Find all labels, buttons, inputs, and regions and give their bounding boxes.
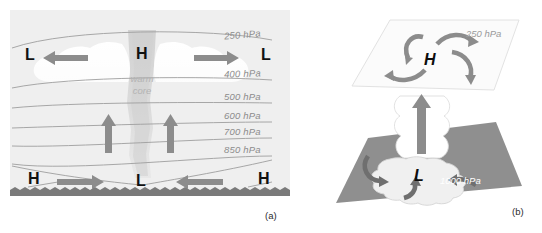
- label-lower-low: L: [414, 168, 424, 184]
- label-upper-low-left: L: [25, 47, 35, 63]
- figure-container: 250 hPa 400 hPa 500 hPa 600 hPa 700 hPa …: [0, 0, 542, 233]
- label-upper-high-center: H: [136, 46, 148, 62]
- plane-label-250hpa: 250 hPa: [466, 28, 501, 39]
- panel-b: 250 hPa 1000 hPa H L: [300, 8, 532, 208]
- warm-core-line-2: core: [133, 85, 151, 96]
- panel-a: 250 hPa 400 hPa 500 hPa 600 hPa 700 hPa …: [10, 10, 290, 196]
- pressure-label-500: 500 hPa: [224, 91, 261, 102]
- label-surface-high-left: H: [28, 171, 40, 187]
- caption-panel-a: (a): [265, 210, 277, 221]
- plane-label-1000hpa: 1000 hPa: [440, 175, 481, 186]
- caption-panel-b: (b): [512, 206, 524, 217]
- arrow-core-ascent-left: [101, 114, 116, 153]
- pressure-label-600: 600 hPa: [224, 110, 261, 121]
- label-upper-low-right: L: [261, 47, 271, 63]
- label-surface-low-center: L: [136, 173, 146, 189]
- label-upper-high: H: [424, 52, 436, 68]
- arrow-core-ascent-right: [163, 114, 178, 153]
- warm-core-label: warm core: [117, 73, 167, 97]
- surface-band: [10, 187, 290, 196]
- arrow-surface-inflow-right: [176, 175, 223, 189]
- anvil-cloud-left: [34, 42, 130, 82]
- pressure-label-400: 400 hPa: [224, 67, 261, 79]
- pressure-label-700: 700 hPa: [224, 126, 261, 137]
- pressure-label-850: 850 hPa: [224, 144, 261, 155]
- arrow-surface-inflow-left: [57, 175, 104, 189]
- label-surface-high-right: H: [258, 171, 270, 187]
- warm-core-line-1: warm: [130, 73, 153, 84]
